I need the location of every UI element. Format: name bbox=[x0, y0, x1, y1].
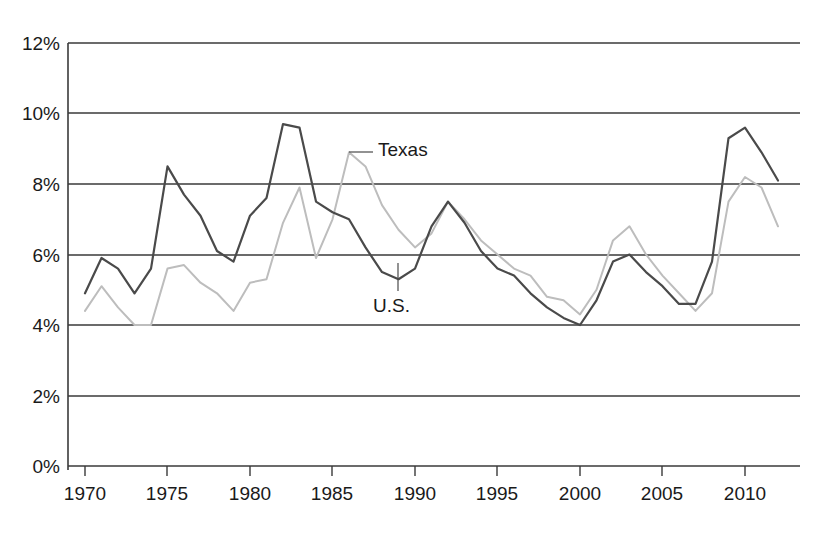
chart-canvas bbox=[0, 0, 823, 539]
unemployment-rate-line-chart: 12% 10% 8% 6% 4% 2% 0% 1970 1975 1980 19… bbox=[0, 0, 823, 539]
annotation-leader-lines bbox=[349, 152, 398, 291]
axis-lines bbox=[68, 43, 745, 476]
gridlines bbox=[68, 43, 800, 466]
series-line-us bbox=[85, 124, 778, 325]
